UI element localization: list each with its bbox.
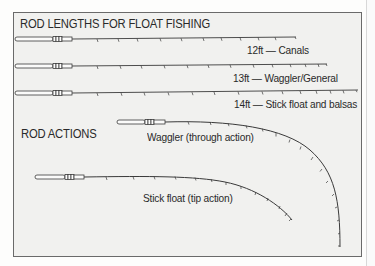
rod-14ft-label: 14ft — Stick float and balsas: [234, 98, 357, 110]
rod-13ft-label: 13ft — Waggler/General: [233, 72, 338, 84]
stick-float-label: Stick float (tip action): [143, 192, 233, 204]
waggler-label: Waggler (through action): [147, 131, 254, 143]
rod-13ft: [15, 64, 327, 70]
diagram-title: ROD LENGTHS FOR FLOAT FISHING: [20, 17, 210, 31]
rod-actions-heading: ROD ACTIONS: [21, 127, 97, 141]
rod-12ft: [15, 37, 296, 43]
rod-14ft: [15, 90, 358, 96]
rod-12ft-label: 12ft — Canals: [247, 44, 309, 56]
